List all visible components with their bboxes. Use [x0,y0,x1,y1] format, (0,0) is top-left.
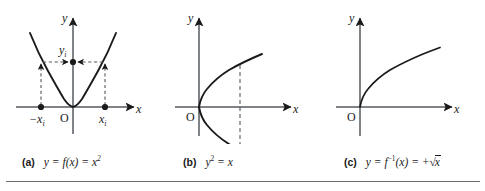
panel-a-caption-formula: y = f(x) = x2 [44,156,101,168]
panel-b-caption-formula: y2 = x [205,156,232,168]
x-axis-label: x [135,102,142,116]
origin-label: O [60,111,69,125]
panel-b: x y O (b)y2 = x [161,0,323,191]
origin-label: O [347,110,356,124]
panel-c-caption-formula: y = f−1(x) = +√x [366,156,441,168]
panel-b-plot: x y O [161,4,323,144]
origin-label: O [186,110,195,124]
panel-a-plot: x y O −xi xi yi [0,4,162,144]
panel-a: x y O −xi xi yi (a)y = f(x) = x2 [0,0,162,191]
y-axis-label: y [348,11,355,25]
panel-b-caption-label: (b) [183,156,196,168]
x-axis-label: x [453,102,460,116]
y-axis-label: y [187,11,194,25]
yi-label: yi [58,43,67,59]
radical-sign: √x [430,149,441,175]
point-pos-xi [102,104,108,110]
x-axis-label: x [292,102,299,116]
bottom-rule [6,181,480,182]
figure-root: x y O −xi xi yi (a)y = f(x) = x2 [0,0,485,191]
panel-b-caption: (b)y2 = x [161,146,323,172]
panel-c-plot: x y O [322,4,484,144]
y-axis-label: y [61,11,68,25]
point-yi [70,59,76,65]
sideways-parabola-upper [199,54,262,107]
panel-a-caption-label: (a) [22,156,35,168]
panel-a-caption: (a)y = f(x) = x2 [0,146,162,172]
panel-c: x y O (c)y = f−1(x) = +√x [322,0,484,191]
neg-xi-label: −xi [29,112,45,128]
panel-c-caption-label: (c) [344,156,357,168]
panel-c-caption: (c)y = f−1(x) = +√x [322,146,484,172]
sideways-parabola-lower [199,107,262,144]
sqrt-curve [360,48,440,108]
pos-xi-label: xi [98,112,107,128]
point-neg-xi [38,104,44,110]
